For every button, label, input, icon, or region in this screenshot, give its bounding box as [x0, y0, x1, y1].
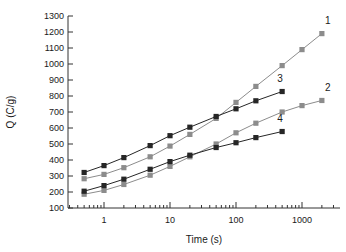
data-point-marker: [82, 176, 87, 181]
x-tick-label: 10: [165, 215, 175, 225]
y-tick-label: 200: [49, 187, 64, 197]
data-point-marker: [101, 183, 106, 188]
data-point-marker: [214, 114, 219, 119]
data-point-marker: [233, 106, 238, 111]
data-point-marker: [167, 143, 172, 148]
series-label-1: 1: [325, 15, 331, 26]
data-point-marker: [253, 84, 258, 89]
y-tick-label: 400: [49, 155, 64, 165]
data-point-marker: [101, 172, 106, 177]
data-point-marker: [167, 133, 172, 138]
data-point-marker: [299, 103, 304, 108]
y-tick-label: 1000: [44, 59, 64, 69]
data-point-marker: [253, 121, 258, 126]
chart-figure: 1002003004005006007008009001000110012001…: [0, 0, 346, 252]
y-tick-label: 100: [49, 203, 64, 213]
y-tick-label: 700: [49, 107, 64, 117]
series-line-1: [84, 34, 322, 179]
data-point-marker: [233, 100, 238, 105]
data-point-marker: [148, 173, 153, 178]
data-point-marker: [101, 163, 106, 168]
data-point-marker: [82, 189, 87, 194]
series-label-2: 2: [325, 82, 331, 93]
x-tick-label: 100: [228, 215, 243, 225]
y-tick-label: 1200: [44, 27, 64, 37]
data-point-marker: [280, 89, 285, 94]
data-point-marker: [299, 47, 304, 52]
data-point-marker: [280, 129, 285, 134]
y-tick-label: 1100: [45, 43, 64, 53]
data-point-marker: [167, 159, 172, 164]
data-point-marker: [319, 31, 324, 36]
y-tick-label: 900: [49, 75, 64, 85]
data-point-marker: [233, 140, 238, 145]
data-point-marker: [187, 153, 192, 158]
data-point-marker: [148, 143, 153, 148]
y-tick-label: 300: [49, 171, 64, 181]
data-point-marker: [121, 182, 126, 187]
x-tick-label: 1: [101, 215, 106, 225]
data-point-marker: [187, 132, 192, 137]
y-tick-label: 1300: [44, 11, 64, 21]
data-point-marker: [121, 155, 126, 160]
series-label-4: 4: [277, 113, 283, 124]
data-point-marker: [148, 167, 153, 172]
data-point-marker: [148, 154, 153, 159]
data-point-marker: [167, 164, 172, 169]
data-point-marker: [214, 145, 219, 150]
y-tick-label: 500: [49, 139, 64, 149]
data-series-group: [82, 31, 325, 197]
series-label-3: 3: [277, 73, 283, 84]
y-tick-label: 800: [49, 91, 64, 101]
data-point-marker: [253, 135, 258, 140]
data-point-marker: [187, 125, 192, 130]
y-axis-ticks: 1002003004005006007008009001000110012001…: [44, 11, 73, 213]
data-point-marker: [82, 170, 87, 175]
data-point-marker: [101, 188, 106, 193]
line-chart-svg: 1002003004005006007008009001000110012001…: [0, 0, 346, 252]
y-axis-title: Q (C/g): [5, 96, 16, 129]
x-tick-label: 1000: [292, 215, 312, 225]
data-point-marker: [319, 98, 324, 103]
x-axis-title: Time (s): [186, 234, 222, 245]
y-tick-label: 600: [49, 123, 64, 133]
data-point-marker: [253, 98, 258, 103]
data-point-marker: [121, 177, 126, 182]
data-point-marker: [280, 63, 285, 68]
x-axis-ticks: 1101001000: [69, 202, 333, 225]
data-point-marker: [121, 165, 126, 170]
data-point-marker: [233, 130, 238, 135]
